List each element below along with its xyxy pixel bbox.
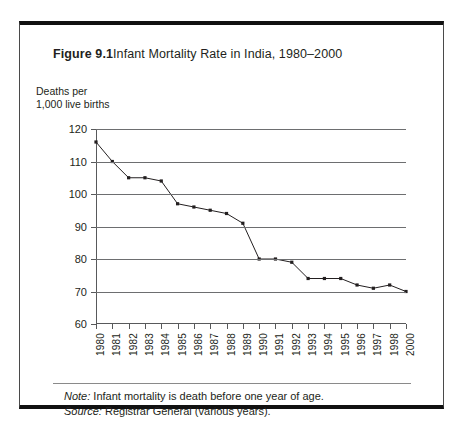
x-tick-1994 (324, 324, 325, 329)
footnote-block: Note: Infant mortality is death before o… (64, 389, 324, 419)
footnote-divider (53, 383, 411, 384)
data-point-1992 (290, 261, 293, 264)
y-tick-70 (91, 292, 96, 293)
x-tick-1991 (275, 324, 276, 329)
data-point-1997 (372, 287, 375, 290)
figure-number: Figure 9.1 (53, 47, 113, 61)
y-tick-80 (91, 259, 96, 260)
y-axis-title-line2: 1,000 live births (36, 98, 110, 111)
y-tick-label-80: 80 (75, 253, 87, 265)
y-tick-label-60: 60 (75, 318, 87, 330)
x-tick-1998 (390, 324, 391, 329)
x-tick-label-1987: 1987 (209, 333, 220, 356)
x-tick-1988 (227, 324, 228, 329)
data-point-1986 (192, 205, 195, 208)
x-tick-label-1984: 1984 (160, 333, 171, 356)
data-point-1995 (339, 277, 342, 280)
data-point-1987 (209, 209, 212, 212)
x-tick-1992 (292, 324, 293, 329)
y-tick-label-70: 70 (75, 286, 87, 298)
figure-container: Figure 9.1Infant Mortality Rate in India… (19, 21, 444, 409)
y-axis-title: Deaths per 1,000 live births (36, 85, 110, 111)
note-line: Note: Infant mortality is death before o… (64, 389, 324, 404)
x-tick-label-1990: 1990 (258, 333, 269, 356)
x-tick-1996 (357, 324, 358, 329)
x-tick-label-1981: 1981 (111, 333, 122, 356)
x-tick-1995 (341, 324, 342, 329)
x-tick-label-1996: 1996 (356, 333, 367, 356)
source-label: Source: (64, 405, 102, 417)
data-point-1982 (127, 176, 130, 179)
x-tick-label-1982: 1982 (127, 333, 138, 356)
x-tick-1990 (259, 324, 260, 329)
x-tick-1989 (243, 324, 244, 329)
x-tick-1997 (373, 324, 374, 329)
y-gridline-120 (96, 129, 406, 130)
x-tick-label-1985: 1985 (176, 333, 187, 356)
x-tick-label-1997: 1997 (372, 333, 383, 356)
x-tick-label-1994: 1994 (323, 333, 334, 356)
x-tick-label-1983: 1983 (143, 333, 154, 356)
source-line: Source: Registrar General (various years… (64, 404, 324, 419)
x-tick-1987 (210, 324, 211, 329)
y-tick-label-120: 120 (69, 123, 87, 135)
x-tick-1982 (129, 324, 130, 329)
x-tick-label-1995: 1995 (339, 333, 350, 356)
y-gridline-70 (96, 292, 406, 293)
y-tick-120 (91, 129, 96, 130)
y-tick-label-100: 100 (69, 188, 87, 200)
x-tick-label-1989: 1989 (241, 333, 252, 356)
series-line (96, 142, 406, 292)
figure-title-text: Infant Mortality Rate in India, 1980–200… (113, 47, 342, 61)
x-tick-2000 (406, 324, 407, 329)
data-point-1988 (225, 212, 228, 215)
data-point-1989 (241, 222, 244, 225)
x-tick-label-1991: 1991 (274, 333, 285, 356)
y-tick-100 (91, 194, 96, 195)
x-tick-1986 (194, 324, 195, 329)
source-text: Registrar General (various years). (102, 405, 271, 417)
x-tick-1993 (308, 324, 309, 329)
x-tick-label-2000: 2000 (405, 333, 416, 356)
x-tick-1983 (145, 324, 146, 329)
data-point-1984 (160, 179, 163, 182)
x-tick-1985 (178, 324, 179, 329)
y-axis-title-line1: Deaths per (36, 85, 110, 98)
y-gridline-110 (96, 162, 406, 163)
chart-plot-area: 6070809010011012019801981198219831984198… (96, 129, 406, 324)
y-tick-110 (91, 162, 96, 163)
data-point-1985 (176, 202, 179, 205)
note-label: Note: (64, 390, 90, 402)
x-tick-label-1993: 1993 (307, 333, 318, 356)
y-gridline-100 (96, 194, 406, 195)
figure-title: Figure 9.1Infant Mortality Rate in India… (53, 47, 342, 61)
data-point-1994 (323, 277, 326, 280)
x-tick-label-1992: 1992 (290, 333, 301, 356)
x-tick-1984 (161, 324, 162, 329)
data-point-1983 (143, 176, 146, 179)
data-point-1993 (307, 277, 310, 280)
x-tick-1980 (96, 324, 97, 329)
data-point-1996 (355, 283, 358, 286)
y-tick-90 (91, 227, 96, 228)
x-tick-label-1988: 1988 (225, 333, 236, 356)
x-tick-1981 (112, 324, 113, 329)
x-tick-label-1998: 1998 (388, 333, 399, 356)
note-text: Infant mortality is death before one yea… (90, 390, 324, 402)
x-tick-label-1980: 1980 (95, 333, 106, 356)
data-point-1980 (94, 140, 97, 143)
data-point-1998 (388, 283, 391, 286)
y-gridline-80 (96, 259, 406, 260)
x-tick-label-1986: 1986 (192, 333, 203, 356)
y-tick-label-90: 90 (75, 221, 87, 233)
y-tick-label-110: 110 (69, 156, 87, 168)
y-gridline-90 (96, 227, 406, 228)
